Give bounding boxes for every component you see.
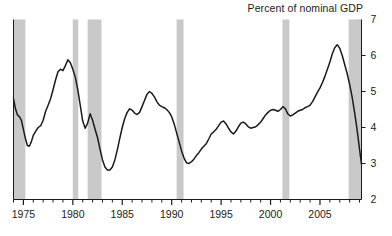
y-tick-label: 4 [371, 121, 377, 133]
data-line [14, 45, 362, 170]
y-tick-label: 5 [371, 85, 377, 97]
recession-band [73, 20, 78, 200]
y-tick-label: 7 [371, 13, 377, 25]
x-tick-label: 1980 [61, 208, 85, 220]
y-tick-label: 6 [371, 49, 377, 61]
recession-band [177, 20, 184, 200]
recession-band [356, 20, 362, 200]
y-axis-tick-labels: 234567 [371, 13, 377, 205]
x-tick-label: 1995 [209, 208, 233, 220]
line-chart: 1975198019851990199520002005 234567 [0, 0, 392, 236]
x-axis-tick-labels: 1975198019851990199520002005 [12, 208, 332, 220]
y-axis-ticks [362, 56, 366, 164]
x-tick-label: 1985 [111, 208, 135, 220]
recession-shading-group [14, 20, 362, 200]
x-tick-label: 2005 [308, 208, 332, 220]
x-tick-label: 1990 [160, 208, 184, 220]
x-tick-label: 2000 [259, 208, 283, 220]
recession-band [88, 20, 102, 200]
x-tick-label: 1975 [12, 208, 36, 220]
y-tick-label: 3 [371, 157, 377, 169]
y-tick-label: 2 [371, 193, 377, 205]
figure-container: Percent of nominal GDP 19751980198519901… [0, 0, 392, 236]
x-axis-ticks [14, 200, 360, 206]
axis-lines [14, 20, 362, 200]
data-series-group [14, 45, 362, 170]
